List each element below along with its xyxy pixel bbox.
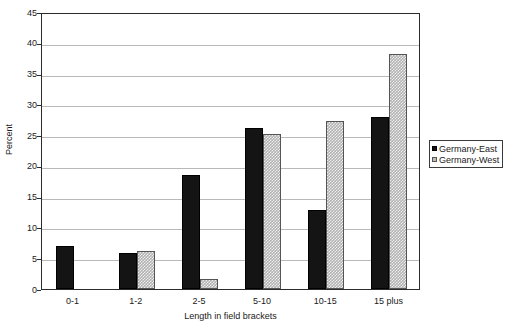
legend-swatch-icon — [432, 157, 437, 162]
bar-east — [119, 253, 137, 289]
legend: Germany-EastGermany-West — [429, 140, 503, 168]
legend-label: Germany-West — [439, 155, 499, 165]
bar-west — [263, 134, 281, 289]
bar-east — [308, 210, 326, 289]
y-axis-title: Percent — [5, 110, 14, 170]
x-axis-tick-label: 2-5 — [167, 296, 230, 306]
bar-group — [42, 14, 105, 289]
bar-east — [182, 175, 200, 289]
bar-west — [389, 54, 407, 289]
legend-item: Germany-West — [432, 154, 499, 165]
bar-chart-figure: 051015202530354045 Percent 0-11-22-55-10… — [0, 0, 515, 334]
x-axis-tick-label: 15 plus — [357, 296, 420, 306]
x-axis-tick-label: 1-2 — [104, 296, 167, 306]
legend-label: Germany-East — [439, 144, 497, 154]
bar-group — [168, 14, 231, 289]
x-axis-tick-label: 10-15 — [294, 296, 357, 306]
bar-west — [137, 251, 155, 289]
bar-group — [105, 14, 168, 289]
x-axis-tick-label: 0-1 — [41, 296, 104, 306]
x-axis-tick-labels: 0-11-22-55-1010-1515 plus — [41, 296, 420, 308]
y-axis-tick-mark — [37, 290, 41, 291]
bar-east — [245, 128, 263, 289]
x-axis-tick-label: 5-10 — [231, 296, 294, 306]
bar-east — [56, 246, 74, 289]
legend-swatch-icon — [432, 146, 437, 151]
bar-group — [358, 14, 421, 289]
x-axis-title: Length in field brackets — [41, 311, 420, 321]
bar-east — [371, 117, 389, 289]
bar-group — [232, 14, 295, 289]
bar-group — [295, 14, 358, 289]
bar-west — [326, 121, 344, 289]
bar-west — [200, 279, 218, 289]
plot-area — [41, 13, 420, 290]
legend-item: Germany-East — [432, 143, 499, 154]
